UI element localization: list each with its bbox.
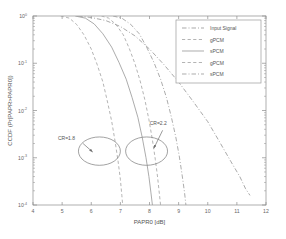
legend-label-1: gPCM	[210, 37, 224, 43]
annotation-arrow-0	[83, 144, 93, 153]
x-tick-label: 9	[177, 208, 180, 214]
y-tick-label: 10-3	[18, 154, 27, 160]
series-line-1	[61, 16, 123, 205]
legend-label-2: sPCM	[210, 48, 224, 54]
annotation-ellipse-0	[78, 137, 120, 165]
x-tick-label: 12	[263, 208, 269, 214]
x-tick-label: 7	[119, 208, 122, 214]
x-axis-label: PAPR0 [dB]	[134, 219, 166, 225]
y-tick-label: 10-1	[18, 60, 27, 66]
series-line-2	[75, 16, 152, 205]
y-axis-label: CCDF (Pr[PAPR>PAPR0])	[7, 75, 13, 145]
x-tick-label: 11	[234, 208, 239, 214]
annotation-arrow-1	[154, 130, 163, 148]
x-tick-label: 5	[61, 208, 64, 214]
y-tick-label: 10-4	[18, 202, 27, 208]
y-tick-label: 10-2	[18, 107, 27, 113]
legend-label-3: gPCM	[210, 60, 224, 66]
x-tick-label: 10	[205, 208, 211, 214]
x-tick-label: 8	[148, 208, 151, 214]
annotation-label-0: CR=1.8	[58, 135, 75, 141]
legend-label-4: sPCM	[210, 71, 224, 77]
annotation-label-1: CR=2.2	[150, 120, 167, 126]
x-tick-label: 6	[90, 208, 93, 214]
legend-label-0: Input Signal	[210, 25, 236, 31]
ccdf-papr-plot: 45678910111210-410-310-210-1100PAPR0 [dB…	[0, 0, 286, 239]
x-tick-label: 4	[32, 208, 35, 214]
y-tick-label: 100	[19, 13, 27, 19]
chart-figure: 45678910111210-410-310-210-1100PAPR0 [dB…	[0, 0, 286, 239]
series-line-4	[113, 16, 186, 205]
